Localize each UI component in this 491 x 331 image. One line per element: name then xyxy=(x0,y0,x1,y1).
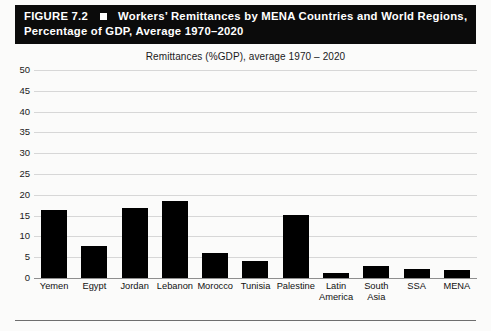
y-axis-tick-labels: 50454035302520151050 xyxy=(4,70,30,278)
x-axis-tick-label: Latin America xyxy=(316,281,356,303)
x-axis-tick-label: MENA xyxy=(437,281,477,292)
x-axis-tick-label: Morocco xyxy=(195,281,235,292)
bar[interactable] xyxy=(122,208,148,278)
x-axis-tick-label: SSA xyxy=(396,281,436,292)
y-axis-tick-label: 45 xyxy=(19,86,30,96)
bar-slot xyxy=(396,70,436,278)
y-axis-tick-label: 50 xyxy=(19,65,30,75)
bar-slot xyxy=(276,70,316,278)
bar-slot xyxy=(74,70,114,278)
bar[interactable] xyxy=(81,246,107,278)
y-axis-tick-label: 5 xyxy=(25,252,30,262)
x-axis-tick-label: Yemen xyxy=(34,281,74,292)
figure-number: FIGURE 7.2 xyxy=(24,9,88,24)
figure-title-part-2: Percentage of GDP, Average 1970–2020 xyxy=(24,24,467,39)
bar-slot xyxy=(155,70,195,278)
bar-slot xyxy=(437,70,477,278)
bar[interactable] xyxy=(404,269,430,278)
chart-title: Remittances (%GDP), average 1970 – 2020 xyxy=(0,51,491,62)
x-axis-tick-label: Palestine xyxy=(276,281,316,292)
bar[interactable] xyxy=(162,201,188,278)
y-axis-tick-label: 35 xyxy=(19,127,30,137)
figure-header-line-1: FIGURE 7.2 Workers’ Remittances by MENA … xyxy=(24,9,467,24)
y-axis-tick-label: 30 xyxy=(19,148,30,158)
bar[interactable] xyxy=(41,210,67,278)
bar[interactable] xyxy=(363,266,389,278)
filled-square-icon xyxy=(100,13,107,20)
bar[interactable] xyxy=(283,215,309,278)
x-axis-tick-label: Jordan xyxy=(115,281,155,292)
y-axis-tick-label: 25 xyxy=(19,169,30,179)
y-axis-tick-label: 0 xyxy=(25,273,30,283)
x-axis-tick-label: Tunisia xyxy=(235,281,275,292)
bar[interactable] xyxy=(202,253,228,278)
y-axis-tick-label: 15 xyxy=(19,211,30,221)
axis-baseline xyxy=(34,278,477,279)
bar-slot xyxy=(235,70,275,278)
bar-slot xyxy=(115,70,155,278)
y-axis-tick-label: 10 xyxy=(19,231,30,241)
bar-slot xyxy=(356,70,396,278)
x-axis-tick-label: Egypt xyxy=(74,281,114,292)
bar[interactable] xyxy=(323,273,349,278)
bar-series xyxy=(34,70,477,278)
bar-slot xyxy=(34,70,74,278)
bar[interactable] xyxy=(444,270,470,278)
figure-container: FIGURE 7.2 Workers’ Remittances by MENA … xyxy=(0,0,491,331)
x-axis-tick-labels: YemenEgyptJordanLebanonMoroccoTunisiaPal… xyxy=(34,281,477,311)
bar[interactable] xyxy=(242,261,268,278)
figure-header-band: FIGURE 7.2 Workers’ Remittances by MENA … xyxy=(15,5,476,44)
bar-slot xyxy=(316,70,356,278)
x-axis-tick-label: Lebanon xyxy=(155,281,195,292)
bar-slot xyxy=(195,70,235,278)
figure-title-part-1: Workers’ Remittances by MENA Countries a… xyxy=(118,9,467,24)
x-axis-tick-label: South Asia xyxy=(356,281,396,303)
y-axis-tick-label: 20 xyxy=(19,190,30,200)
y-axis-tick-label: 40 xyxy=(19,107,30,117)
figure-bottom-rule xyxy=(15,320,476,321)
